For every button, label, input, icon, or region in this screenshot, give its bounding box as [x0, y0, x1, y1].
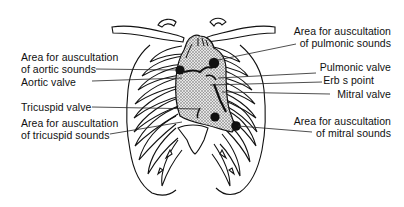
- label-aortic-area: Area for auscultation of aortic sounds: [21, 51, 118, 75]
- tricuspid-area-spot: [210, 112, 219, 121]
- clavicle-left: [112, 19, 184, 42]
- label-pulmonic-area-line2: of pulmonic sounds: [294, 37, 391, 49]
- heart: [176, 35, 235, 132]
- label-erbs-point: Erb s point: [323, 74, 374, 86]
- sternum: [178, 125, 208, 154]
- label-aortic-valve-text: Aortic valve: [21, 76, 76, 88]
- label-mitral-area-line2: of mitral sounds: [294, 127, 391, 139]
- label-pulmonic-area-line1: Area for auscultation: [294, 25, 391, 37]
- pulmonic-area-spot: [209, 58, 219, 68]
- label-tricuspid-valve: Tricuspid valve: [21, 101, 91, 113]
- label-mitral-area: Area for auscultation of mitral sounds: [294, 115, 391, 139]
- label-tricuspid-area: Area for auscultation of tricuspid sound…: [21, 117, 118, 141]
- label-tricuspid-area-line2: of tricuspid sounds: [21, 129, 118, 141]
- label-mitral-area-line1: Area for auscultation: [294, 115, 391, 127]
- aortic-area-spot: [175, 65, 184, 74]
- label-pulmonic-valve: Pulmonic valve: [320, 61, 391, 73]
- label-aortic-valve: Aortic valve: [21, 76, 76, 88]
- label-erbs-point-text: Erb s point: [323, 74, 374, 86]
- label-pulmonic-area: Area for auscultation of pulmonic sounds: [294, 25, 391, 49]
- label-aortic-area-line2: of aortic sounds: [21, 63, 118, 75]
- label-pulmonic-valve-text: Pulmonic valve: [320, 61, 391, 73]
- label-tricuspid-area-line1: Area for auscultation: [21, 117, 118, 129]
- clavicle-right: [206, 18, 275, 42]
- label-tricuspid-valve-text: Tricuspid valve: [21, 101, 91, 113]
- label-mitral-valve: Mitral valve: [337, 88, 391, 100]
- label-aortic-area-line1: Area for auscultation: [21, 51, 118, 63]
- auscultation-diagram: Area for auscultation of aortic sounds A…: [0, 0, 404, 207]
- label-mitral-valve-text: Mitral valve: [337, 88, 391, 100]
